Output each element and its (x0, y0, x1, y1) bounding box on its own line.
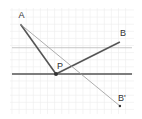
label-Bp: B' (118, 93, 126, 103)
grid (10, 8, 134, 114)
label-A: A (19, 10, 25, 20)
label-P: P (57, 61, 63, 71)
segment-P-B (56, 42, 120, 74)
label-B: B (120, 28, 126, 38)
point-P (54, 72, 58, 76)
segment-A-Bp (21, 24, 120, 106)
geometry-diagram: APBB' (0, 0, 142, 119)
point-Bp (119, 105, 121, 107)
